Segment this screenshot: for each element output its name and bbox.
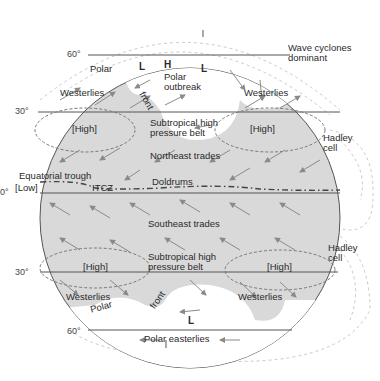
label-polar-north: Polar — [90, 64, 112, 74]
label-westerlies-south-right: Westerlies — [238, 292, 282, 302]
label-low-north-left: L — [139, 62, 145, 72]
label-high-north: H — [164, 60, 171, 70]
label-hadley-south-2: cell — [328, 253, 342, 263]
label-southeast-trades: Southeast trades — [148, 219, 220, 229]
lat-label-s60: 60° — [67, 326, 81, 336]
label-polar-easterlies: Polar easterlies — [144, 334, 209, 344]
label-equatorial-trough: Equatorial trough — [19, 171, 91, 181]
label-high-south-right: [High] — [267, 262, 292, 272]
label-westerlies-north-right: Westerlies — [244, 88, 288, 98]
label-doldrums: Doldrums — [152, 177, 193, 187]
label-northeast-trades: Northeast trades — [150, 151, 220, 161]
lat-label-n30: 30° — [15, 106, 29, 116]
label-hadley-north-2: cell — [323, 143, 337, 153]
label-subtropical-south-2: pressure belt — [148, 262, 203, 272]
label-high-north-left: [High] — [72, 124, 97, 134]
lat-label-s30: 30° — [15, 267, 29, 277]
label-low-south: L — [188, 316, 194, 326]
label-low-equator: [Low] — [15, 183, 38, 193]
label-wave-cyclones-2: dominant — [288, 53, 327, 63]
label-westerlies-north-left: Westerlies — [60, 88, 104, 98]
lat-label-eq: 0° — [0, 187, 9, 197]
label-high-south-left: [High] — [83, 262, 108, 272]
label-high-north-right: [High] — [250, 124, 275, 134]
label-itcz: ITCZ — [92, 183, 113, 193]
label-low-north-right: L — [201, 64, 207, 74]
label-subtropical-north-2: pressure belt — [150, 128, 205, 138]
label-polar-outbreak-2: outbreak — [164, 82, 201, 92]
lat-label-n60: 60° — [67, 49, 81, 59]
